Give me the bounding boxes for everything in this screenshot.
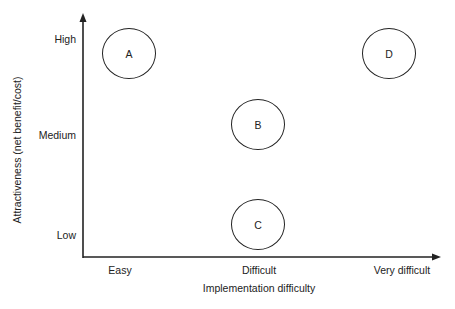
x-tick-easy: Easy [108,264,131,276]
x-tick-difficult: Difficult [242,264,276,276]
bubble-c: C [231,199,285,250]
bubble-a: A [102,28,156,79]
bubble-d: D [362,28,416,79]
y-tick-low: Low [6,229,76,241]
y-axis-label: Attractiveness (net benefit/cost) [11,76,23,223]
x-axis-label: Implementation difficulty [203,282,315,294]
x-tick-very-difficult: Very difficult [374,264,430,276]
y-tick-high: High [6,33,76,45]
bubble-b: B [231,99,285,150]
